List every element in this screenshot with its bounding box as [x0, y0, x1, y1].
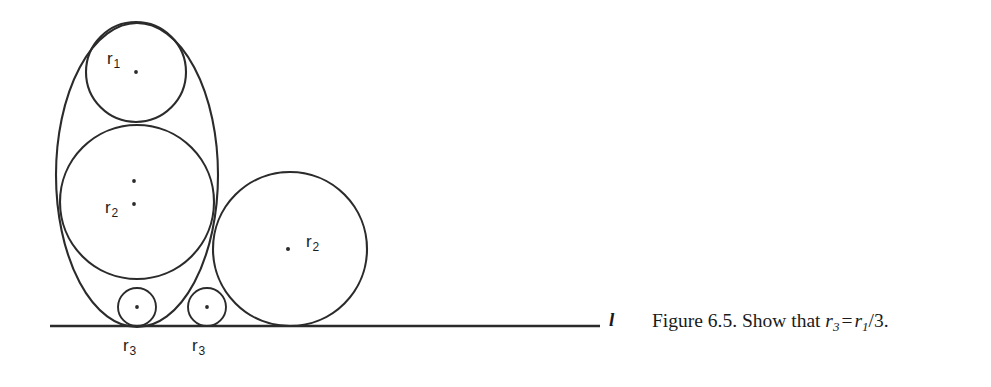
label-r3-left-var: r [123, 336, 129, 355]
figure-container: r1 r2 r2 r3 r3 l Figure 6.5. Show that r… [0, 0, 991, 387]
label-r2-right-var: r [306, 232, 312, 251]
formula-rhs-rest: /3. [869, 310, 889, 331]
label-r2-left-var: r [105, 198, 111, 217]
center-dot-r2-left [132, 202, 136, 206]
label-r1-sub: 1 [113, 57, 120, 71]
formula-rhs-var: r [854, 310, 862, 331]
center-dot-r3-right [205, 305, 209, 309]
label-r3-right: r3 [192, 337, 205, 357]
label-r3-right-var: r [192, 336, 198, 355]
center-dot-r2-right [286, 247, 290, 251]
formula-equals: = [839, 310, 854, 331]
circle-r2-left [60, 125, 214, 279]
figure-caption: Figure 6.5. Show that r3=r1/3. [652, 309, 889, 334]
label-r2-left-sub: 2 [111, 206, 118, 220]
label-r3-left-sub: 3 [129, 344, 136, 358]
label-r2-right-sub: 2 [312, 240, 319, 254]
center-dot-r1 [134, 70, 138, 74]
label-r1-var: r [107, 49, 113, 68]
center-dot-r3-left [135, 305, 139, 309]
center-dot-oval [132, 179, 136, 183]
outer-oval [56, 23, 218, 327]
label-r3-right-sub: 3 [198, 344, 205, 358]
caption-prefix: Figure 6.5. Show that [652, 310, 825, 331]
label-r2-right: r2 [306, 233, 319, 253]
formula-lhs-var: r [825, 310, 833, 331]
label-r3-left: r3 [123, 337, 136, 357]
label-r2-left: r2 [105, 199, 118, 219]
label-r1: r1 [107, 50, 120, 70]
label-line-l: l [609, 310, 614, 329]
